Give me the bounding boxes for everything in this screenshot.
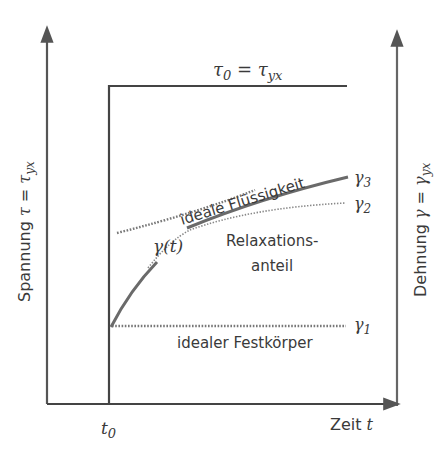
gamma2-label: γ2: [354, 194, 371, 216]
relaxation-label-line1: Relaxations-: [226, 232, 318, 250]
ideal-solid-label: idealer Festkörper: [177, 334, 313, 352]
stress-level-label: τ0 = τyx: [213, 59, 283, 83]
gamma3-label: γ3: [354, 168, 372, 190]
creep-diagram: τ0 = τyx ideale Flüssigkeit γ3 γ2 γ1 γ(t…: [0, 0, 445, 462]
t0-tick-label: t0: [101, 418, 116, 441]
relaxation-label-line2: anteil: [251, 257, 293, 275]
x-axis-label: Zeit t: [330, 415, 374, 434]
right-axis-label: Dehnung γ = γyx: [411, 163, 433, 297]
gamma1-label: γ1: [354, 315, 371, 337]
ideal-fluid-label: ideale Flüssigkeit: [178, 174, 307, 229]
strain-function-label: γ(t): [153, 236, 183, 256]
strain-curve-lower: [111, 262, 157, 327]
left-axis-label: Spannung τ = τyx: [15, 161, 37, 302]
